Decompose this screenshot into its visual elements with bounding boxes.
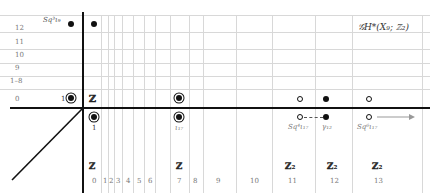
- group-label-c7: ℤ: [176, 161, 183, 171]
- col-label-1: 1: [103, 177, 107, 185]
- generator-dot: [323, 96, 329, 102]
- col-label-11: 11: [288, 177, 297, 185]
- generator-dot: [323, 114, 329, 120]
- diagram-title: 𝒢H*(X₉; ℤ₂): [358, 22, 409, 33]
- col-label-0: 0: [92, 177, 96, 185]
- generator-dot: [176, 95, 182, 101]
- label-sq4: Sq⁴ι₁₇: [288, 123, 308, 131]
- generator-dot: [91, 114, 97, 120]
- col-label-10: 10: [250, 177, 259, 185]
- open-dot: [366, 96, 372, 102]
- row-label-12: 12: [15, 24, 24, 32]
- generator-dot: [68, 95, 74, 101]
- row-label-11: 11: [15, 38, 24, 46]
- label-one-below: 1: [92, 124, 96, 132]
- label-iota17: ι₁₇: [175, 124, 183, 132]
- group-label-c0: ℤ: [89, 161, 96, 171]
- col-label-7: 7: [177, 177, 181, 185]
- row-label-10: 10: [15, 51, 24, 59]
- label-gamma: γ₁₂: [322, 123, 332, 131]
- arrow-right-icon: [375, 112, 415, 122]
- label-sq6: Sq⁶ι₁₇: [357, 123, 377, 131]
- col-label-6: 6: [148, 177, 152, 185]
- dashed-connector: [304, 117, 323, 118]
- col-label-3: 3: [116, 177, 120, 185]
- col-label-5: 5: [137, 177, 141, 185]
- generator-dot: [91, 21, 97, 27]
- generator-dot: [176, 114, 182, 120]
- row-label-0: 0: [15, 95, 19, 103]
- col-label-12: 12: [330, 177, 339, 185]
- col-label-2: 2: [109, 177, 113, 185]
- col-label-4: 4: [126, 177, 130, 185]
- label-one-left: 1: [61, 95, 65, 103]
- row-label-1-8: 1–8: [10, 77, 22, 85]
- open-dot: [297, 114, 303, 120]
- col-label-13: 13: [374, 177, 383, 185]
- generator-dot: [68, 21, 74, 27]
- origin-group: ℤ: [89, 93, 96, 104]
- open-dot: [366, 114, 372, 120]
- group-label-c12: ℤ₂: [327, 161, 338, 171]
- open-dot: [297, 96, 303, 102]
- col-label-8: 8: [193, 177, 197, 185]
- group-label-c11: ℤ₂: [285, 161, 296, 171]
- group-label-c13: ℤ₂: [372, 161, 383, 171]
- row-label-9: 9: [15, 64, 19, 72]
- col-label-9: 9: [216, 177, 220, 185]
- label-sq3: Sq³ι₉: [43, 16, 61, 24]
